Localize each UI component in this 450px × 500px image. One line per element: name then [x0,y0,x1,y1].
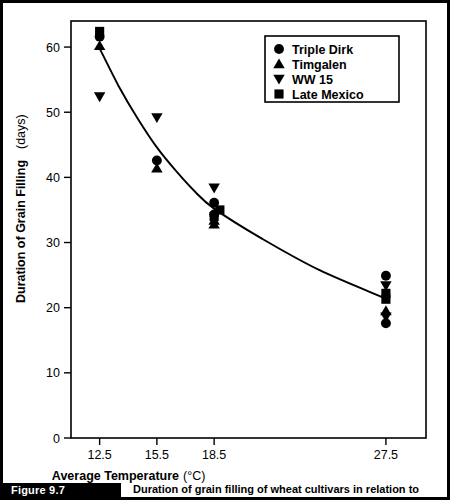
y-tick-label: 50 [46,106,60,120]
figure-number-tab: Figure 9.7 [3,483,121,497]
marker-circle [381,271,391,281]
y-tick-label: 30 [46,236,60,250]
x-axis-title: Average Temperature (°C) [52,469,206,483]
legend-label: Triple Dirk [292,43,353,57]
x-tick-label: 27.5 [374,448,398,462]
legend-label: Late Mexico [292,88,364,102]
y-tick-label: 10 [46,366,60,380]
svg-text:(°C): (°C) [183,469,205,483]
x-tick-label: 12.5 [87,448,111,462]
legend-label: Timgalen [292,58,347,72]
y-tick-label: 40 [46,171,60,185]
figure-container: 0102030405060 12.515.518.527.5 Triple Di… [0,0,450,500]
marker-circle [274,44,284,54]
y-tick-label: 20 [46,301,60,315]
svg-text:(days): (days) [14,114,28,149]
data-point [95,27,104,36]
data-point [210,212,219,221]
y-tick-label: 60 [46,41,60,55]
svg-text:Average Temperature: Average Temperature [52,469,179,483]
figure-number-label: Figure 9.7 [3,483,121,496]
marker-square [95,27,104,36]
data-point [381,295,390,304]
data-point [94,92,105,102]
data-point [151,163,162,173]
marker-square [274,89,283,98]
marker-triangle-down [151,113,162,123]
chart-legend: Triple DirkTimgalenWW 15Late Mexico [265,36,399,102]
data-point [94,40,105,50]
scatter-chart: 0102030405060 12.515.518.527.5 Triple Di… [3,3,447,490]
y-axis-title: Duration of Grain Filling (days) [14,114,28,303]
marker-triangle-down [94,92,105,102]
x-tick-label: 18.5 [202,448,226,462]
y-axis-ticks: 0102030405060 [46,41,71,446]
data-point [381,271,391,281]
marker-triangle-down [208,184,219,194]
chart-plot-area: 0102030405060 12.515.518.527.5 Triple Di… [3,3,447,490]
marker-triangle-up [151,163,162,173]
marker-triangle-up [94,40,105,50]
x-tick-label: 15.5 [145,448,169,462]
data-point [208,184,219,194]
data-point [151,113,162,123]
legend-label: WW 15 [292,73,333,87]
legend-marker [274,44,284,54]
y-tick-label: 0 [53,432,60,446]
svg-text:Duration of Grain Filling: Duration of Grain Filling [14,160,28,303]
series-ww-15 [94,92,392,322]
legend-marker [274,89,283,98]
figure-caption-bar: Figure 9.7 Duration of grain filling of … [3,483,450,497]
marker-square [381,295,390,304]
figure-caption-text: Duration of grain filling of wheat culti… [133,483,449,497]
x-axis-ticks: 12.515.518.527.5 [87,438,398,462]
marker-square [210,212,219,221]
